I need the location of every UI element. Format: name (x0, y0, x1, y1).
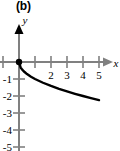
figure-panel-b: (b) 2 3 4 5 - (0, 0, 120, 151)
x-tick-label-5: 5 (96, 69, 102, 81)
y-tick-label--2: -2 (3, 90, 12, 102)
y-tick-label--4: -4 (3, 124, 13, 136)
y-axis-label: y (22, 14, 28, 26)
origin-point-marker (16, 59, 22, 65)
y-tick-label--3: -3 (3, 107, 13, 119)
x-tick-label-2: 2 (48, 69, 54, 81)
x-axis-label: x (113, 57, 119, 69)
y-tick-label--1: -1 (3, 73, 12, 85)
coordinate-plot: 2 3 4 5 -1 -2 -3 -4 -5 y x (0, 0, 120, 151)
y-tick-label--5: -5 (3, 141, 13, 151)
x-axis-arrow-icon (103, 58, 113, 67)
x-tick-label-4: 4 (80, 69, 86, 81)
x-tick-label-3: 3 (64, 69, 70, 81)
data-curve (19, 62, 99, 100)
